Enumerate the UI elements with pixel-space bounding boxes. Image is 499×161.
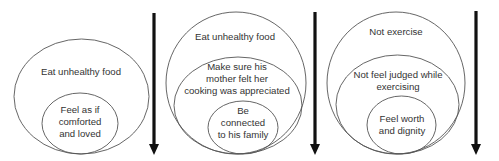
label-line: Not feel judged while (353, 69, 442, 81)
arrow-2-head (310, 144, 320, 155)
label-line: comforted (59, 116, 102, 128)
arrow-1 (149, 13, 159, 155)
diagram-3-middle-label: Not feel judged while exercising (353, 69, 442, 93)
diagram-2-middle-label: Make sure his mother felt her cooking wa… (184, 61, 290, 97)
label-line: cooking was appreciated (184, 85, 290, 97)
diagram-1-inner-label: Feel as if comforted and loved (59, 104, 102, 140)
label-line: Feel as if (59, 104, 102, 116)
label-line: Make sure his (184, 61, 290, 73)
diagram-2-outer-label: Eat unhealthy food (195, 31, 275, 43)
label-line: to his family (218, 129, 269, 141)
label-line: exercising (353, 81, 442, 93)
diagram-1-outer-label: Eat unhealthy food (41, 66, 121, 78)
arrow-1-head (149, 144, 159, 155)
arrow-2 (310, 12, 320, 155)
label-line: Feel worth (379, 113, 425, 125)
arrow-3 (471, 11, 481, 155)
label-line: and dignity (379, 125, 425, 137)
label-line: Be (218, 105, 269, 117)
arrow-3-head (471, 144, 481, 155)
diagram-3-inner-label: Feel worth and dignity (379, 113, 425, 137)
diagram-2-inner-label: Be connected to his family (218, 105, 269, 141)
label-line: and loved (59, 128, 102, 140)
label-line: connected (218, 117, 269, 129)
label-line: mother felt her (184, 73, 290, 85)
diagram-3-outer-label: Not exercise (369, 26, 422, 38)
